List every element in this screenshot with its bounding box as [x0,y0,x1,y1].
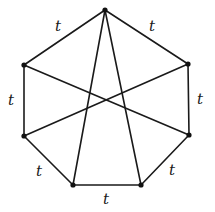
heptagon-graph-diagram: t t t t t t t [0,0,215,212]
label-edge-top-left: t [55,17,62,35]
label-edge-right: t [197,90,204,108]
outer-edges [24,10,189,185]
diagonals [24,10,189,185]
label-edge-bottom-right: t [169,161,176,179]
edge-upper-left-top [24,10,105,65]
edge-lower-right-bottom-right [141,135,189,185]
edge-bottom-left-lower-left [24,136,73,185]
vertex-bottom-left [70,182,75,187]
label-edge-top-right: t [149,17,156,35]
label-edge-bottom: t [103,190,110,208]
label-edge-bottom-left: t [36,162,43,180]
vertex-upper-right [185,61,190,66]
vertices [21,7,191,187]
label-edge-left: t [8,91,15,109]
vertex-lower-left [21,133,26,138]
edge-top-upper-right [105,10,188,64]
edge-labels: t t t t t t t [8,17,204,208]
vertex-lower-right [186,132,191,137]
vertex-bottom-right [138,182,143,187]
edge-upper-right-lower-right [188,64,189,135]
vertex-top [102,7,107,12]
vertex-upper-left [21,62,26,67]
